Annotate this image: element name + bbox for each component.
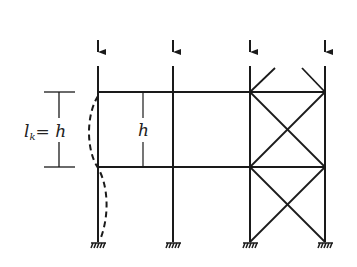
frame-diagram: lk= h h <box>0 0 357 267</box>
fixed-supports <box>91 243 333 248</box>
story-height-label: h <box>138 120 149 140</box>
buckling-length-label: lk= h <box>24 121 66 142</box>
load-arrows <box>98 40 325 52</box>
fixed-support-icon <box>91 243 106 248</box>
brace-top-right <box>302 68 325 92</box>
bracing <box>250 68 325 242</box>
fixed-support-icon <box>318 243 333 248</box>
brace-top-left <box>250 68 275 92</box>
fixed-support-icon <box>166 243 181 248</box>
beams <box>98 92 325 167</box>
fixed-support-icon <box>243 243 258 248</box>
